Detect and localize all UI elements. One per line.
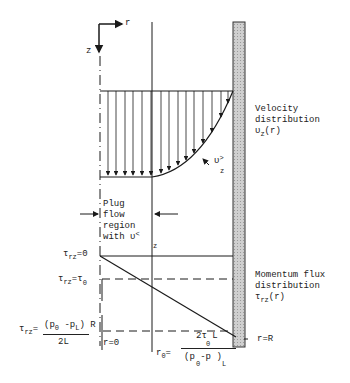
velocity-label-line1: Velocity (255, 104, 320, 115)
tau-wall-denominator: 2L (58, 337, 69, 348)
plug-flow-label: Plug flow region with υ< z (103, 199, 157, 250)
num-sub0: 0 (55, 324, 59, 332)
r0-denominator: (p -p ) (184, 352, 222, 363)
velocity-distribution-label: Velocity distribution υz(r) (255, 104, 320, 137)
u-greater-sub: z (220, 166, 224, 177)
r0-lhs: r0= (156, 348, 171, 359)
num-mid: -p (59, 320, 75, 330)
subscript: z (260, 130, 264, 138)
velocity-label-symbol: υz(r) (255, 126, 320, 137)
r0-fraction-bar (181, 348, 236, 349)
argument: (r) (269, 292, 285, 302)
r0-sub: 0 (161, 352, 165, 360)
subscript: rz (63, 278, 71, 286)
tau-wall-numerator: (p0 -pL) R (44, 320, 96, 331)
r-R-label: r=R (257, 334, 273, 345)
superscript: > (219, 154, 223, 162)
subscript: rz (68, 253, 76, 261)
subscript: rz (260, 296, 268, 304)
plug-label-line4: with υ< (103, 232, 157, 243)
momentum-flux-profile (100, 256, 248, 350)
r-zero-label: r=0 (103, 338, 119, 349)
plug-label-line1: Plug (103, 199, 157, 210)
r0-den-sub0: 0 (196, 359, 200, 370)
plug-label-line3: region (103, 221, 157, 232)
tau-zero-label: τrz=0 (63, 249, 88, 260)
momentum-flux-label: Momentum flux distribution τrz(r) (255, 270, 325, 303)
num-subL: L (75, 324, 79, 332)
tube-wall (233, 22, 245, 347)
r-axis-label: r (125, 18, 130, 29)
num-p: (p (44, 320, 55, 330)
momentum-label-line1: Momentum flux (255, 270, 325, 281)
equals-zero: =0 (77, 249, 88, 259)
equals-tau: =τ (72, 274, 83, 284)
equals: = (33, 324, 38, 334)
plug-label-line2: flow (103, 210, 157, 221)
momentum-label-line2: distribution (255, 281, 325, 292)
tau-wall-fraction-bar (43, 334, 89, 335)
z-axis-label: z (86, 46, 91, 57)
argument: (r) (265, 126, 281, 136)
subscript-zero: 0 (83, 279, 87, 287)
coordinate-axes (99, 24, 122, 52)
plug-label-sub: z (103, 243, 157, 250)
plug-label-with: with υ (103, 232, 135, 242)
velocity-label-line2: distribution (255, 115, 320, 126)
r0-den-subL: L (222, 359, 226, 370)
less-than-sup: < (135, 230, 139, 238)
num-end: ) R (79, 320, 95, 330)
tau-tau0-label: τrz=τ0 (58, 274, 87, 285)
subscript: rz (24, 328, 32, 336)
tau-wall-lhs: τrz= (19, 324, 38, 335)
r0-eq: = (166, 348, 171, 358)
momentum-label-symbol: τrz(r) (255, 292, 325, 303)
